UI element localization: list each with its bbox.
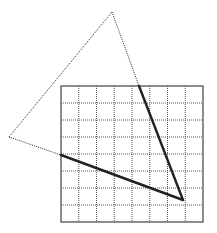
- grid-lines: [61, 86, 203, 222]
- edge-inside-bottom: [61, 155, 183, 200]
- edge-top-to-grid: [112, 12, 139, 86]
- triangle-grid-diagram: [0, 0, 217, 233]
- triangle-dotted-edges: [9, 12, 139, 155]
- diagram-canvas: [0, 0, 217, 233]
- edge-left-to-grid: [9, 137, 61, 155]
